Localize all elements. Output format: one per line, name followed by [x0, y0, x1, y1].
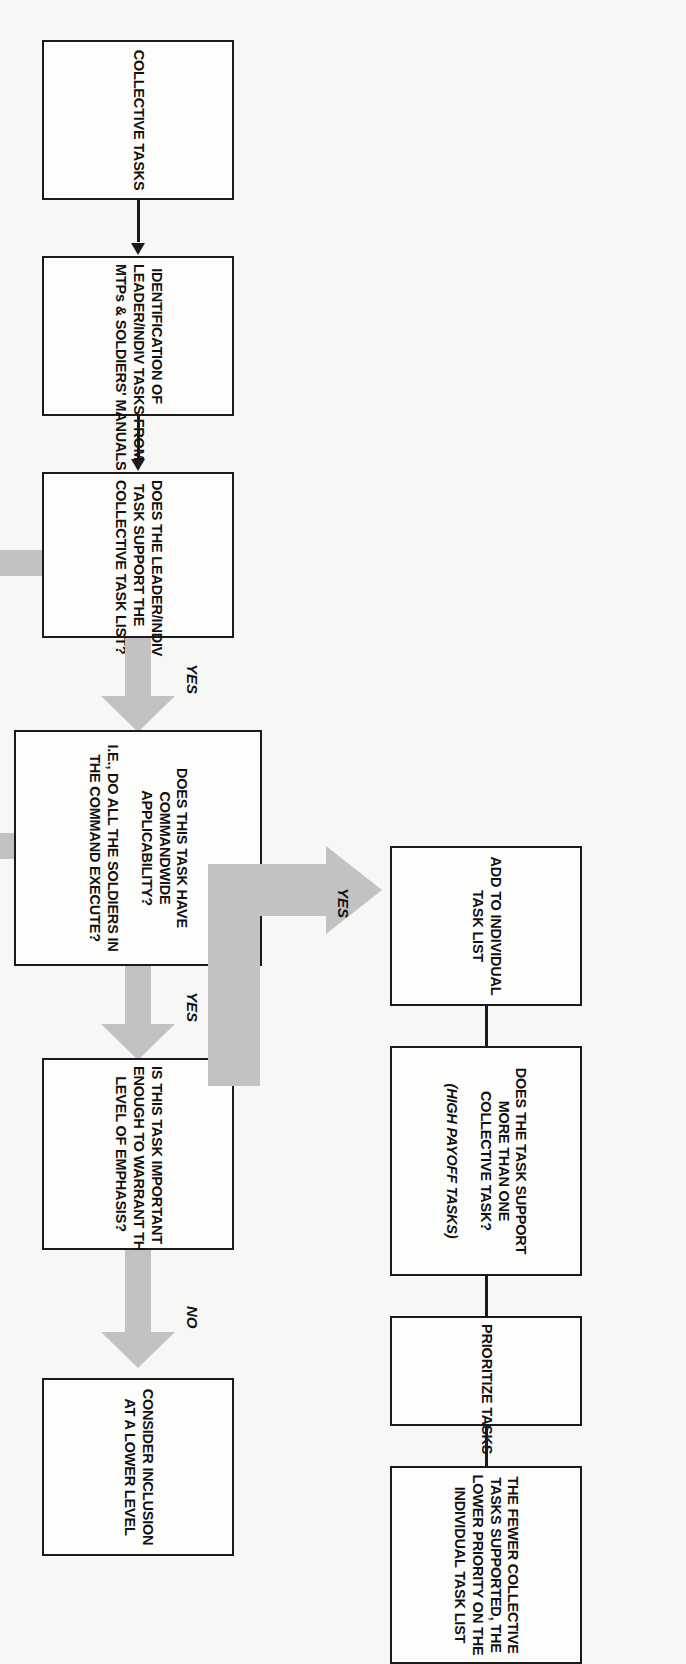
node-text: CONSIDER INCLUSION — [138, 1386, 156, 1548]
node-q-support-collective: DOES THE LEADER/INDIV TASK SUPPORT THE C… — [42, 472, 234, 638]
node-text: APPLICABILITY? — [137, 738, 155, 958]
node-consider-lower: CONSIDER INCLUSION AT A LOWER LEVEL — [42, 1378, 234, 1556]
node-text: AT A LOWER LEVEL — [120, 1386, 138, 1548]
node-text: DOES THE TASK SUPPORT — [512, 1054, 530, 1268]
node-text: LEVEL OF EMPHASIS? — [111, 1066, 129, 1242]
node-text: LEADER/INDIV TASKS FROM — [129, 264, 147, 408]
edge-q4-to-prioritize — [485, 1276, 488, 1320]
node-text: THE FEWER COLLECTIVE — [504, 1474, 522, 1656]
node-text-spacer — [121, 738, 137, 958]
edge-label: YES — [184, 664, 201, 694]
edge-q2-yes-to-q3: YES — [95, 966, 181, 1062]
node-text: MTPs & SOLDIERS' MANUALS — [111, 264, 129, 408]
edge-q1-yes-to-q2: YES — [95, 638, 181, 734]
node-text: IS THIS TASK IMPORTANT — [147, 1066, 165, 1242]
node-fewer-collective: THE FEWER COLLECTIVE TASKS SUPPORTED, TH… — [390, 1466, 582, 1664]
edge-prioritize-to-fewer — [485, 1426, 488, 1470]
node-add-individual: ADD TO INDIVIDUAL TASK LIST — [390, 846, 582, 1006]
node-text-spacer — [460, 1054, 476, 1268]
node-text: THE COMMAND EXECUTE? — [86, 738, 104, 958]
node-identification: IDENTIFICATION OF LEADER/INDIV TASKS FRO… — [42, 256, 234, 416]
node-text: (HIGH PAYOFF TASKS) — [443, 1054, 461, 1268]
node-text: MORE THAN ONE — [494, 1054, 512, 1268]
edge-collective-to-identification — [137, 200, 140, 242]
node-text: ENOUGH TO WARRANT THE — [129, 1066, 147, 1242]
edge-add-to-q4 — [485, 1006, 488, 1050]
edge-q1-no-to-discard: NO — [0, 520, 42, 606]
node-text: ADD TO INDIVIDUAL — [486, 854, 504, 998]
node-text: COLLECTIVE TASK? — [476, 1054, 494, 1268]
node-text: INDIVIDUAL TASK LIST — [451, 1474, 469, 1656]
node-text: TASK SUPPORT THE — [129, 480, 147, 630]
edge-label: NO — [184, 1306, 201, 1329]
edge-q3-no-to-lower: NO — [95, 1250, 181, 1370]
node-text: TASKS SUPPORTED, THE — [486, 1474, 504, 1656]
node-text: TASK LIST — [468, 854, 486, 998]
node-text: DOES THE LEADER/INDIV — [147, 480, 165, 630]
node-text: DOES THIS TASK HAVE — [173, 738, 191, 958]
node-text: COMMANDWIDE — [155, 738, 173, 958]
edge-q2-no-to-soldiers: NO — [0, 803, 14, 889]
node-text: COLLECTIVE TASKS — [129, 48, 147, 192]
node-text: PRIORITIZE TASKS — [477, 1324, 495, 1418]
node-text: IDENTIFICATION OF — [147, 264, 165, 408]
edge-label: YES — [184, 992, 201, 1022]
edge-identification-to-q1 — [137, 416, 140, 458]
node-prioritize: PRIORITIZE TASKS — [390, 1316, 582, 1426]
node-q-important: IS THIS TASK IMPORTANT ENOUGH TO WARRANT… — [42, 1058, 234, 1250]
node-text: COLLECTIVE TASK LIST? — [111, 480, 129, 630]
node-q-more-than-one: DOES THE TASK SUPPORT MORE THAN ONE COLL… — [390, 1046, 582, 1276]
edge-label: YES — [335, 888, 352, 918]
node-text: I.E., DO ALL THE SOLDIERS IN — [103, 738, 121, 958]
node-text: LOWER PRIORITY ON THE — [468, 1474, 486, 1656]
node-collective-tasks: COLLECTIVE TASKS — [42, 40, 234, 200]
edge-q3-yes-to-add: YES — [204, 846, 390, 1086]
